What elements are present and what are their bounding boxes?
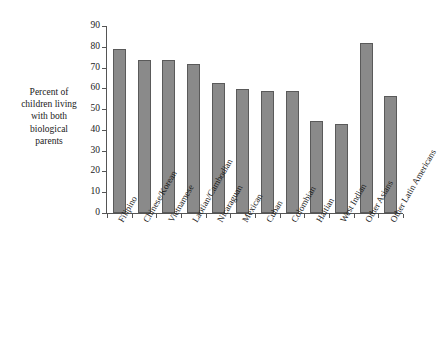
y-axis-tick-label: 20 [91,164,101,177]
x-axis-tick-mark [378,214,379,218]
bar [335,124,348,213]
y-axis-title-line: children living [10,98,88,110]
y-axis-tick-mark [102,213,106,214]
x-axis-tick-mark [230,214,231,218]
y-axis-tick-mark [102,171,106,172]
x-axis-tick-mark [329,214,330,218]
x-axis-tick-mark [255,214,256,218]
x-axis-tick-mark [206,214,207,218]
y-axis-tick-label: 40 [91,123,101,136]
y-axis-tick-mark [102,47,106,48]
x-axis-tick-mark [156,214,157,218]
y-axis-tick-label: 60 [91,81,101,94]
y-axis-line [106,26,107,214]
x-axis-tick-mark [181,214,182,218]
y-axis-tick-label: 80 [91,40,101,53]
y-axis-tick-mark [102,88,106,89]
x-axis-tick-mark [132,214,133,218]
y-axis-tick-label: 90 [91,19,101,32]
y-axis-tick-mark [102,26,106,27]
y-axis-tick-label: 70 [91,61,101,74]
y-axis-tick-mark [102,151,106,152]
bar [113,49,126,213]
y-axis-tick-mark [102,109,106,110]
y-axis-title-line: Percent of [10,86,88,98]
x-axis-tick-mark [354,214,355,218]
x-axis-tick-mark [403,214,404,218]
y-axis-tick-label: 0 [95,206,100,219]
y-axis-title-line: with both [10,110,88,122]
y-axis-title: Percent of children living with both bio… [10,86,88,147]
bar [310,121,323,213]
x-axis-category-labels: FilipinoChinese/KoreanVietnameseLaotian/… [107,219,415,339]
bar [286,91,299,213]
x-axis-tick-mark [107,214,108,218]
x-axis-tick-mark [280,214,281,218]
bar [138,60,151,213]
y-axis-tick-label: 30 [91,144,101,157]
x-axis-tick-mark [304,214,305,218]
y-axis-tick-mark [102,68,106,69]
y-axis-tick-mark [102,130,106,131]
y-axis-title-line: parents [10,135,88,147]
y-axis-tick-label: 50 [91,102,101,115]
y-axis-tick-label: 10 [91,185,101,198]
y-axis-tick-mark [102,192,106,193]
y-axis-title-line: biological [10,123,88,135]
